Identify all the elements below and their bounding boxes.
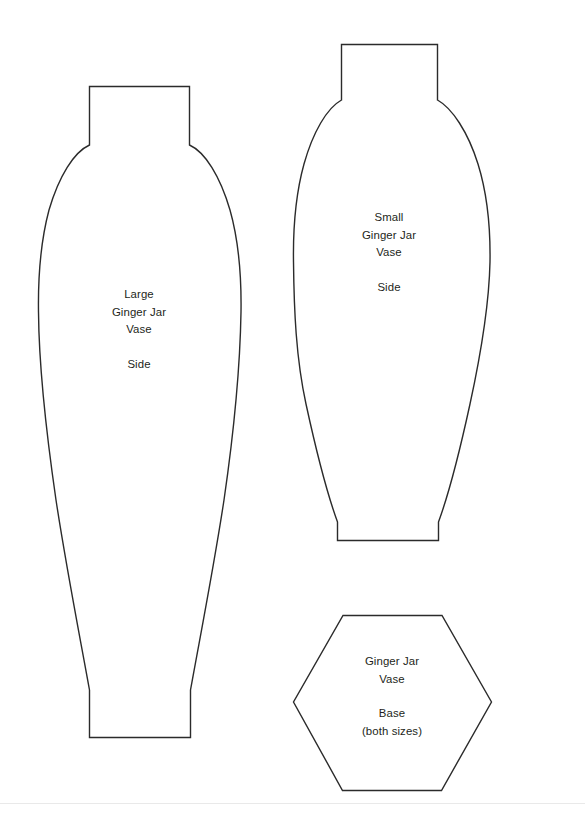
large-vase-label-line-2: Ginger Jar [89,304,189,322]
base-label-line-1: Ginger Jar [342,653,442,671]
pattern-canvas [0,0,585,803]
small-vase-label-line-3: Vase [339,244,439,262]
small-vase-label-line-2: Ginger Jar [339,227,439,245]
small-vase-side-label: Small Ginger Jar Vase Side [339,209,439,296]
base-label-spacer [342,688,442,705]
large-vase-label-line-4: Side [89,356,189,374]
small-vase-label-line-4: Side [339,279,439,297]
base-label-line-2: Vase [342,671,442,689]
large-vase-label-spacer [89,339,189,356]
base-label-line-4: (both sizes) [342,723,442,741]
page-separator [0,803,585,838]
large-vase-side-label: Large Ginger Jar Vase Side [89,286,189,373]
pattern-sheet: Large Ginger Jar Vase Side Small Ginger … [0,0,585,803]
small-vase-label-line-1: Small [339,209,439,227]
large-vase-label-line-1: Large [89,286,189,304]
pattern-page: Large Ginger Jar Vase Side Small Ginger … [0,0,585,838]
vase-base-label: Ginger Jar Vase Base (both sizes) [342,653,442,740]
large-vase-label-line-3: Vase [89,321,189,339]
base-label-line-3: Base [342,705,442,723]
small-vase-label-spacer [339,262,439,279]
large-vase-side-outline [38,87,241,738]
